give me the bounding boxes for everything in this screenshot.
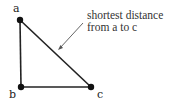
annotation-line-1: shortest distance: [87, 9, 163, 21]
annotation-arrow-icon: [60, 23, 83, 48]
annotation-line-2: from a to c: [87, 21, 137, 33]
point-c-dot: [88, 84, 94, 90]
point-b-label: b: [9, 88, 16, 101]
point-b-dot: [18, 84, 24, 90]
point-a-label: a: [13, 2, 20, 15]
edge-a-c: [20, 20, 91, 87]
point-c-label: c: [97, 88, 103, 101]
point-a-dot: [17, 17, 23, 23]
edge-a-b: [20, 20, 21, 87]
triangle-diagram: a b c shortest distance from a to c: [0, 0, 171, 107]
